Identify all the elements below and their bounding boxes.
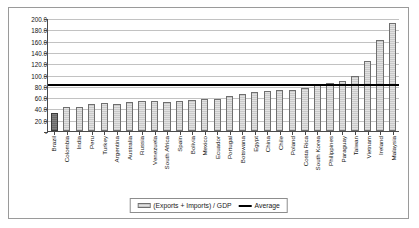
bar	[339, 81, 346, 131]
x-label-slot: Botswana	[236, 136, 249, 194]
x-label-slot: Chile	[273, 136, 286, 194]
bar-slot	[48, 19, 61, 131]
bar	[113, 104, 120, 131]
x-axis-tick-label: Venezuela	[150, 136, 157, 165]
bar	[88, 104, 95, 131]
x-axis-tick-mark	[330, 131, 331, 135]
bar-series	[48, 19, 399, 131]
x-axis-tick-label: Malaysia	[389, 136, 396, 160]
bar-slot	[136, 19, 149, 131]
x-axis-tick-label: Taiwan	[352, 136, 359, 155]
bar	[151, 101, 158, 131]
x-axis-tick-mark	[255, 131, 256, 135]
bar-slot	[236, 19, 249, 131]
average-line	[48, 84, 399, 86]
bar	[276, 90, 283, 131]
x-label-slot: Vietnam	[361, 136, 374, 194]
bar	[301, 88, 308, 131]
x-axis-tick-mark	[342, 131, 343, 135]
x-label-slot: Australia	[122, 136, 135, 194]
bar-slot	[86, 19, 99, 131]
bar-slot	[161, 19, 174, 131]
x-label-slot: Turkey	[97, 136, 110, 194]
x-axis-tick-mark	[104, 131, 105, 135]
x-axis-tick-mark	[180, 131, 181, 135]
x-label-slot: South Africa	[160, 136, 173, 194]
x-axis-tick-mark	[230, 131, 231, 135]
bar	[289, 90, 296, 131]
bar-slot	[223, 19, 236, 131]
x-axis-tick-label: Peru	[88, 136, 95, 149]
x-label-slot: Philippines	[324, 136, 337, 194]
x-axis-tick-mark	[393, 131, 394, 135]
bar-slot	[311, 19, 324, 131]
x-axis-tick-label: Ecuador	[213, 136, 220, 159]
x-axis-tick-label: Ireland	[377, 136, 384, 155]
bar-slot	[249, 19, 262, 131]
x-axis-tick-label: Brazil	[50, 136, 57, 151]
y-axis-tick-mark	[44, 132, 48, 133]
bar	[63, 107, 70, 131]
legend-entry-average: Average	[239, 201, 280, 210]
x-axis-tick-mark	[267, 131, 268, 135]
bar	[314, 85, 321, 131]
x-axis-tick-mark	[355, 131, 356, 135]
x-axis-tick-label: Chile	[276, 136, 283, 150]
bar-slot	[111, 19, 124, 131]
x-axis-tick-label: Costa Rica	[301, 136, 308, 166]
x-label-slot: Colombia	[60, 136, 73, 194]
bar-slot	[148, 19, 161, 131]
x-axis-tick-label: Philippines	[327, 136, 334, 166]
x-axis-tick-label: Mexico	[201, 136, 208, 156]
bar-slot	[61, 19, 74, 131]
bar	[101, 103, 108, 131]
bar-slot	[336, 19, 349, 131]
bar-slot	[374, 19, 387, 131]
bar-slot	[73, 19, 86, 131]
bar	[264, 91, 271, 131]
bar	[364, 61, 371, 131]
x-label-slot: South Korea	[311, 136, 324, 194]
x-label-slot: Russia	[135, 136, 148, 194]
x-axis-tick-label: Paraguay	[339, 136, 346, 163]
x-axis-tick-mark	[167, 131, 168, 135]
x-axis-tick-mark	[205, 131, 206, 135]
y-axis-labels: 200.0180.0160.0140.0120.0100.080.060.040…	[17, 12, 47, 139]
bar-swatch-icon	[137, 203, 150, 208]
x-label-slot: Taiwan	[349, 136, 362, 194]
x-axis-tick-label: India	[75, 136, 82, 149]
x-label-slot: Egypt	[248, 136, 261, 194]
bar	[188, 100, 195, 131]
x-axis-tick-label: Turkey	[100, 136, 107, 155]
x-axis-tick-label: Bolivia	[188, 136, 195, 154]
x-axis-tick-label: Egypt	[251, 136, 258, 152]
x-axis-tick-label: Vietnam	[364, 136, 371, 159]
x-axis-tick-mark	[117, 131, 118, 135]
chart-legend: (Exports + Imports) / GDP Average	[129, 198, 288, 213]
x-label-slot: Peru	[85, 136, 98, 194]
bar	[239, 94, 246, 131]
x-axis-tick-mark	[317, 131, 318, 135]
bar	[201, 99, 208, 131]
bar-slot	[211, 19, 224, 131]
x-label-slot: Venezuela	[148, 136, 161, 194]
x-label-slot: India	[72, 136, 85, 194]
x-label-slot: China	[261, 136, 274, 194]
bar	[76, 107, 83, 131]
bar-slot	[286, 19, 299, 131]
x-label-slot: Spain	[173, 136, 186, 194]
bar-slot	[361, 19, 374, 131]
x-label-slot: Malaysia	[387, 136, 400, 194]
x-axis-tick-mark	[79, 131, 80, 135]
bar	[251, 92, 258, 131]
bar-slot	[198, 19, 211, 131]
x-axis-tick-mark	[142, 131, 143, 135]
bar-slot	[98, 19, 111, 131]
bar	[214, 99, 221, 131]
x-label-slot: Portugal	[223, 136, 236, 194]
x-label-slot: Ecuador	[211, 136, 224, 194]
x-axis-tick-label: Argentina	[113, 136, 120, 163]
x-axis-tick-mark	[155, 131, 156, 135]
x-label-slot: Poland	[286, 136, 299, 194]
bar-slot	[324, 19, 337, 131]
